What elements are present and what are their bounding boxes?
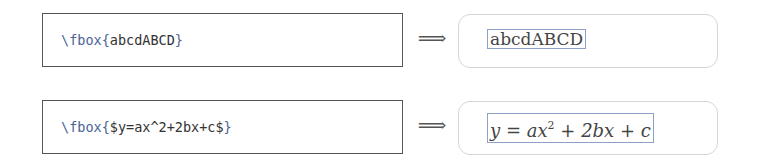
result-box-math-example: y = ax2 + 2bx + c	[458, 101, 718, 155]
fbox-argument: $y=ax^2+2bx+c$	[110, 119, 224, 135]
open-brace: {	[102, 32, 110, 48]
implies-arrow-icon: ⟹	[414, 113, 450, 137]
fbox-rendered-text: abcdABCD	[487, 29, 586, 49]
math-ax: ax	[527, 120, 548, 141]
math-equals: =	[500, 120, 527, 141]
code-box-math-example: \fbox{$y=ax^2+2bx+c$}	[42, 100, 403, 154]
fbox-command: \fbox	[61, 32, 102, 48]
math-y: y	[490, 120, 500, 141]
math-plus: +	[614, 120, 641, 141]
close-brace: }	[175, 32, 183, 48]
code-box-text-example: \fbox{abcdABCD}	[42, 13, 403, 67]
math-2bx: 2bx	[581, 120, 614, 141]
close-brace: }	[224, 119, 232, 135]
math-plus: +	[555, 120, 582, 141]
math-c: c	[641, 120, 651, 141]
implies-arrow-icon: ⟹	[414, 26, 450, 50]
fbox-argument: abcdABCD	[110, 32, 175, 48]
math-exponent: 2	[548, 119, 555, 132]
open-brace: {	[102, 119, 110, 135]
fbox-command: \fbox	[61, 119, 102, 135]
fbox-rendered-equation: y = ax2 + 2bx + c	[487, 113, 654, 143]
result-box-text-example: abcdABCD	[458, 14, 718, 68]
